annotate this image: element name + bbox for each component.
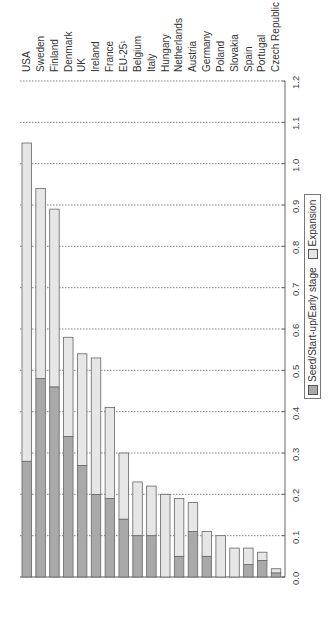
bar-segment bbox=[105, 408, 115, 499]
category-label: Austria bbox=[187, 41, 198, 72]
y-tick-label: 0.9 bbox=[290, 200, 301, 213]
legend-expansion-label: Expansion bbox=[307, 200, 318, 247]
expansion-swatch bbox=[308, 249, 318, 259]
category-label: USA bbox=[21, 51, 32, 72]
bar-segment bbox=[133, 482, 143, 536]
bar-segment bbox=[257, 552, 267, 560]
bar-segment bbox=[161, 494, 171, 577]
y-tick-label: 0.6 bbox=[290, 324, 301, 337]
y-tick-label: 1.2 bbox=[290, 76, 301, 89]
y-tick-label: 1.0 bbox=[290, 158, 301, 171]
bar-segment bbox=[64, 436, 74, 577]
category-label: Sweden bbox=[35, 36, 46, 72]
y-tick-label: 1.1 bbox=[290, 117, 301, 130]
bar-segment bbox=[119, 453, 129, 519]
bar-segment bbox=[271, 573, 281, 577]
bar-segment bbox=[202, 532, 212, 557]
bar-segment bbox=[188, 503, 198, 532]
y-tick-label: 0.4 bbox=[290, 406, 301, 419]
category-label: Portugal bbox=[256, 35, 267, 72]
bar-segment bbox=[147, 486, 157, 536]
bar-segment bbox=[230, 548, 240, 577]
bar-segment bbox=[36, 188, 46, 378]
category-label: EU-25¹ bbox=[118, 40, 129, 72]
bar-segment bbox=[147, 536, 157, 577]
bar-segment bbox=[244, 565, 254, 577]
bar-segment bbox=[174, 556, 184, 577]
category-label: Slovakia bbox=[229, 34, 240, 72]
bar-segment bbox=[133, 536, 143, 577]
category-label: UK bbox=[76, 58, 87, 72]
category-label: Netherlands bbox=[173, 18, 184, 72]
category-label: Italy bbox=[146, 54, 157, 72]
stacked-bar-chart bbox=[0, 0, 331, 619]
category-label: Ireland bbox=[90, 41, 101, 72]
category-label: France bbox=[104, 41, 115, 72]
y-tick-label: 0.7 bbox=[290, 282, 301, 295]
seed-swatch bbox=[308, 385, 318, 395]
category-label: Germany bbox=[201, 31, 212, 72]
bar-segment bbox=[174, 498, 184, 556]
bar-segment bbox=[91, 494, 101, 577]
bar-segment bbox=[91, 358, 101, 494]
bar-segment bbox=[77, 465, 87, 577]
category-label: Spain bbox=[243, 46, 254, 72]
bar-segment bbox=[257, 560, 267, 577]
bar-segment bbox=[22, 461, 32, 577]
legend-seed-label: Seed/Start-up/Early stage bbox=[307, 267, 318, 382]
category-label: Poland bbox=[215, 41, 226, 72]
category-label: Belgium bbox=[132, 36, 143, 72]
category-label: Finland bbox=[49, 39, 60, 72]
bar-segment bbox=[202, 556, 212, 577]
y-tick-label: 0.0 bbox=[290, 572, 301, 585]
y-tick-label: 0.1 bbox=[290, 530, 301, 543]
y-tick-label: 0.2 bbox=[290, 489, 301, 502]
bar-segment bbox=[50, 209, 60, 387]
bar-segment bbox=[244, 548, 254, 565]
category-label: Denmark bbox=[63, 31, 74, 72]
y-tick-label: 0.5 bbox=[290, 365, 301, 378]
bar-segment bbox=[119, 519, 129, 577]
bar-segment bbox=[36, 379, 46, 577]
legend: Seed/Start-up/Early stage Expansion bbox=[304, 194, 321, 399]
category-label: Hungary bbox=[160, 34, 171, 72]
bar-segment bbox=[188, 532, 198, 577]
bar-segment bbox=[105, 498, 115, 577]
y-tick-label: 0.3 bbox=[290, 448, 301, 461]
y-tick-label: 0.8 bbox=[290, 241, 301, 254]
bar-segment bbox=[271, 569, 281, 573]
bar-segment bbox=[77, 354, 87, 466]
bar-segment bbox=[50, 387, 60, 577]
bar-segment bbox=[216, 536, 226, 577]
bar-segment bbox=[22, 143, 32, 461]
category-label: Czech Republic bbox=[270, 2, 281, 72]
bar-segment bbox=[64, 337, 74, 436]
